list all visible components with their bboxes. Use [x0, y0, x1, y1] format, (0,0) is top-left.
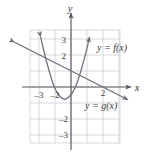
f-curve-label: y = f(x) — [96, 42, 128, 54]
y-tick-label-3: 3 — [62, 35, 67, 45]
x-tick-label-neg2: –2 — [50, 90, 60, 100]
y-axis-label: y — [67, 3, 73, 14]
axes — [22, 13, 131, 150]
graph-figure: y x –3 –2 2 3 2 –2 –3 y = f(x) y = g(x) — [0, 0, 148, 152]
x-axis-label: x — [134, 82, 140, 93]
y-tick-label-neg3: –3 — [58, 130, 69, 140]
y-tick-label-2: 2 — [62, 51, 67, 61]
x-tick-label-neg3: –3 — [34, 90, 45, 100]
coordinate-plane-svg: y x –3 –2 2 3 2 –2 –3 y = f(x) y = g(x) — [0, 0, 148, 152]
x-tick-label-2: 2 — [101, 88, 106, 98]
g-curve-label: y = g(x) — [84, 100, 118, 112]
y-tick-label-neg2: –2 — [58, 114, 68, 124]
